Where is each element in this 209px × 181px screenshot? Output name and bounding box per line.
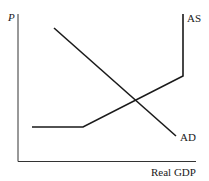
x-axis-label: Real GDP — [151, 166, 196, 178]
as-curve-label: AS — [187, 12, 201, 24]
ad-curve-label: AD — [180, 131, 196, 143]
as-ad-chart: P AS AD Real GDP — [0, 0, 209, 181]
ad-curve — [54, 28, 176, 136]
as-curve — [32, 14, 183, 127]
y-axis-label: P — [7, 11, 15, 23]
